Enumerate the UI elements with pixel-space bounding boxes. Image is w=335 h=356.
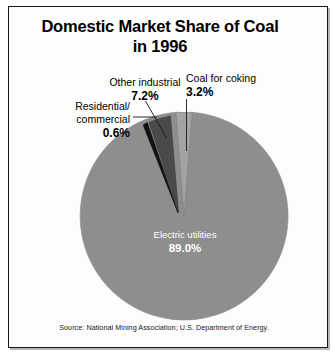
slice-label-coal-for-coking: Coal for coking 3.2% [186, 72, 298, 99]
pie-chart-svg [0, 0, 335, 356]
slice-label-residential-commercial: Residential/ commercial 0.6% [38, 100, 130, 140]
slice-label-coking-percent: 3.2% [186, 85, 298, 100]
slice-label-residential-name: Residential/ commercial [38, 100, 130, 126]
slice-label-electric-name: Electric utilities [124, 229, 246, 241]
slice-label-electric-percent: 89.0% [124, 241, 246, 255]
pie-chart: Residential/ commercial 0.6% Other indus… [0, 0, 335, 356]
figure-container: Domestic Market Share of Coal in 1996 Re… [0, 0, 335, 356]
slice-label-residential-percent: 0.6% [38, 126, 130, 141]
source-note: Source: National Mining Association; U.S… [14, 323, 314, 332]
slice-label-coking-name: Coal for coking [186, 72, 298, 85]
slice-label-electric-utilities: Electric utilities 89.0% [124, 229, 246, 255]
